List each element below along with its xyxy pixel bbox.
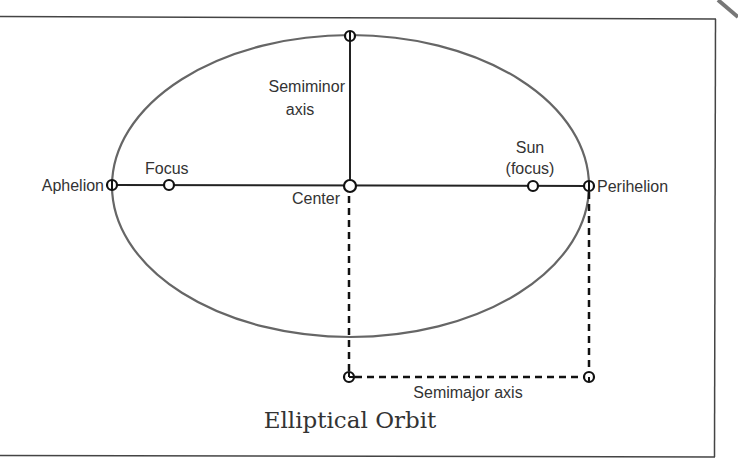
semiminor-label-line2: axis: [286, 101, 314, 118]
semimajor-dashed-indicator: [349, 192, 589, 377]
perihelion-label: Perihelion: [597, 178, 668, 195]
sun-label-line1: Sun: [516, 139, 544, 156]
center-label: Center: [292, 190, 341, 207]
focus-label: Focus: [145, 160, 189, 177]
elliptical-orbit-diagram: Semiminor axis Focus Aphelion Center Sun…: [0, 0, 738, 476]
sun-focus-point: [528, 181, 538, 191]
frame: [0, 17, 716, 458]
corner-diagonal-mark: [718, 0, 738, 17]
diagram-title: Elliptical Orbit: [264, 407, 437, 433]
focus-point: [164, 180, 174, 190]
aphelion-label: Aphelion: [42, 177, 104, 194]
semiminor-label-line1: Semiminor: [269, 78, 346, 95]
center-point: [344, 180, 356, 192]
semimajor-label: Semimajor axis: [413, 384, 522, 401]
sun-label-line2: (focus): [506, 160, 555, 177]
